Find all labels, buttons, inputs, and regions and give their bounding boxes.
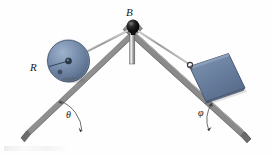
label-angle-theta: θ [66, 110, 71, 120]
disk-on-left-incline [47, 39, 90, 83]
scan-artifact [4, 146, 68, 151]
mechanics-figure: B R θ φ [0, 0, 272, 155]
figure-canvas [0, 0, 272, 155]
block-on-right-incline [187, 54, 247, 106]
label-disk-radius-R: R [30, 62, 37, 73]
left-inclined-beam [21, 25, 143, 143]
apex-vertical-post [130, 30, 135, 64]
label-apex-B: B [126, 7, 133, 18]
label-angle-phi: φ [198, 108, 204, 118]
